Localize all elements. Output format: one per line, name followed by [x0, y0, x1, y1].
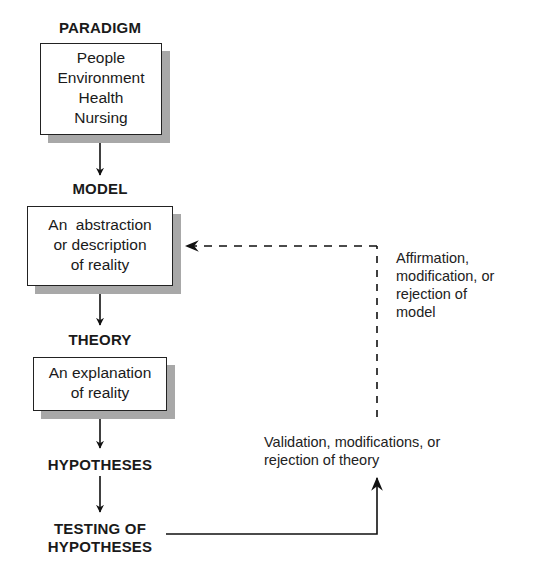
paradigm-box: People Environment Health Nursing	[40, 43, 162, 135]
theory-line-1: An explanation	[34, 363, 166, 383]
theory-box: An explanation of reality	[33, 357, 167, 411]
testing-heading: TESTING OF HYPOTHESES	[30, 520, 170, 556]
testing-heading-line-1: TESTING OF	[30, 520, 170, 538]
paradigm-line-health: Health	[41, 88, 161, 108]
model-line-3: of reality	[28, 255, 172, 275]
theory-heading: THEORY	[50, 331, 150, 349]
paradigm-line-nursing: Nursing	[41, 108, 161, 128]
theory-feedback-line-1: Validation, modifications, or	[264, 433, 504, 451]
paradigm-line-environment: Environment	[41, 68, 161, 88]
model-feedback-line-1: Affirmation,	[396, 249, 536, 267]
paradigm-heading: PARADIGM	[50, 19, 150, 37]
theory-line-2: of reality	[34, 383, 166, 403]
theory-feedback-note: Validation, modifications, or rejection …	[264, 433, 504, 469]
model-box: An abstraction or description of reality	[27, 206, 173, 286]
model-feedback-line-4: model	[396, 303, 536, 321]
model-line-2: or description	[28, 235, 172, 255]
paradigm-line-people: People	[41, 48, 161, 68]
arrow-testing-to-validation	[166, 478, 377, 534]
testing-heading-line-2: HYPOTHESES	[30, 538, 170, 556]
model-feedback-line-2: modification, or	[396, 267, 536, 285]
hypotheses-heading: HYPOTHESES	[30, 456, 170, 474]
model-heading: MODEL	[50, 180, 150, 198]
model-line-1: An abstraction	[28, 215, 172, 235]
model-feedback-line-3: rejection of	[396, 285, 536, 303]
model-feedback-note: Affirmation, modification, or rejection …	[396, 249, 536, 321]
theory-feedback-line-2: rejection of theory	[264, 451, 504, 469]
